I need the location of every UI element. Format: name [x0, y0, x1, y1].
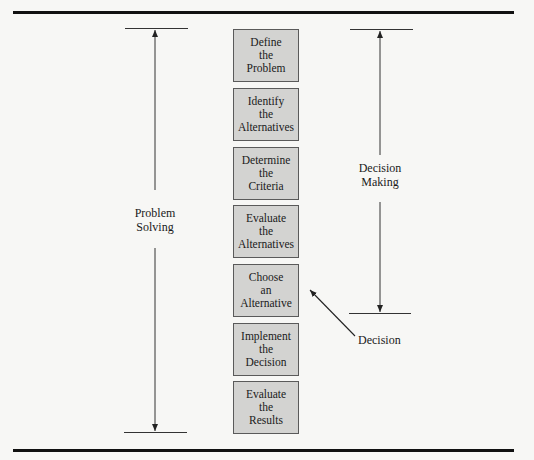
decision-making-label: Decision Making — [352, 161, 408, 189]
step-identify-alternatives: Identify the Alternatives — [233, 88, 299, 141]
step-evaluate-alternatives: Evaluate the Alternatives — [233, 205, 299, 258]
step-choose-alternative: Choose an Alternative — [233, 264, 299, 317]
step-determine-criteria: Determine the Criteria — [233, 147, 299, 200]
problem-solving-label: Problem Solving — [128, 206, 182, 234]
step-label: Evaluate the Alternatives — [238, 212, 294, 251]
decision-callout-arrow — [310, 290, 355, 336]
step-implement-decision: Implement the Decision — [233, 323, 299, 376]
step-define-problem: Define the Problem — [233, 29, 299, 82]
step-label: Determine the Criteria — [242, 154, 291, 193]
step-label: Identify the Alternatives — [238, 95, 294, 134]
step-label: Evaluate the Results — [246, 388, 286, 427]
step-label: Implement the Decision — [241, 330, 291, 369]
step-evaluate-results: Evaluate the Results — [233, 381, 299, 434]
step-label: Define the Problem — [247, 36, 286, 75]
decision-callout-label: Decision — [358, 333, 408, 347]
step-label: Choose an Alternative — [240, 271, 292, 310]
